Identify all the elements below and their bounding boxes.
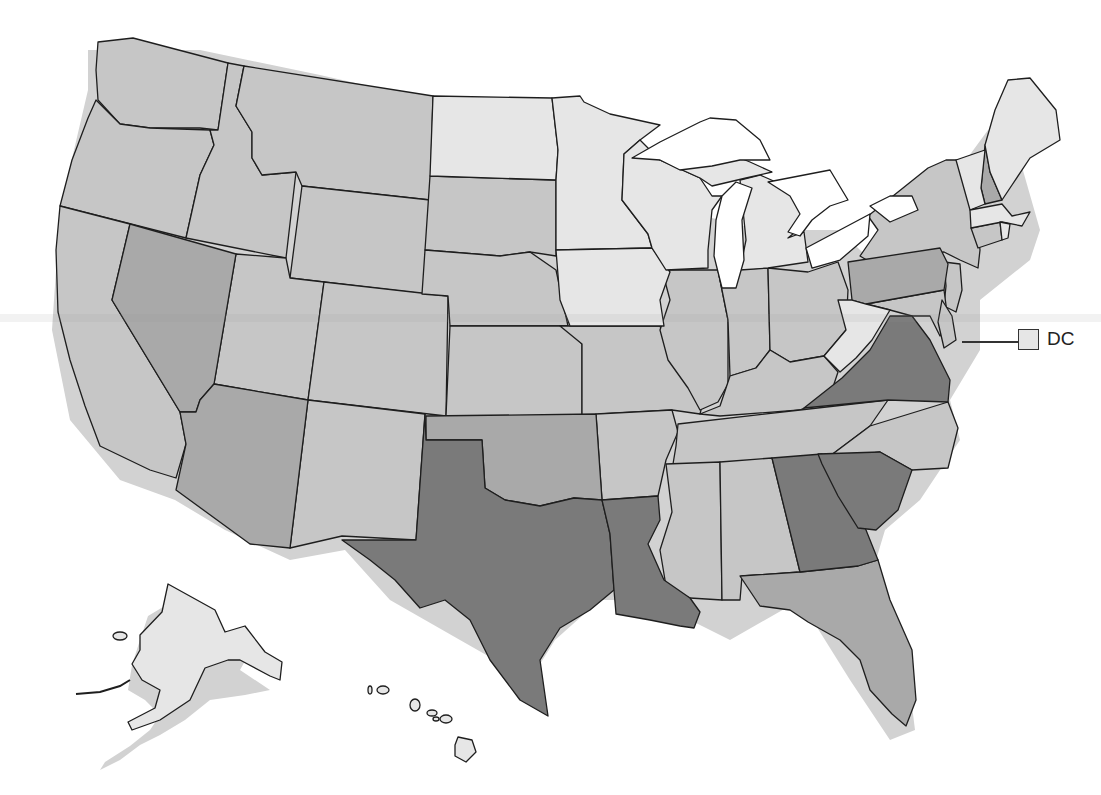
state-colorado — [308, 282, 448, 416]
dc-callout-box — [1018, 329, 1039, 350]
state-kansas — [446, 326, 582, 418]
scan-artifact — [0, 314, 1101, 322]
state-north-dakota — [430, 96, 558, 180]
dc-callout-line — [962, 341, 1018, 343]
alaska-island — [113, 632, 127, 640]
state-new-mexico — [290, 400, 425, 548]
us-choropleth-map — [0, 0, 1101, 795]
state-rhode-island — [1000, 222, 1010, 240]
state-mississippi — [660, 462, 722, 600]
state-wyoming — [290, 186, 430, 294]
state-alaska — [128, 584, 282, 730]
state-hawaii-big-island — [455, 737, 476, 762]
hawaii — [368, 686, 476, 762]
state-south-dakota — [425, 176, 556, 256]
aleutian-islands — [76, 680, 130, 694]
dc-label: DC — [1047, 328, 1074, 350]
